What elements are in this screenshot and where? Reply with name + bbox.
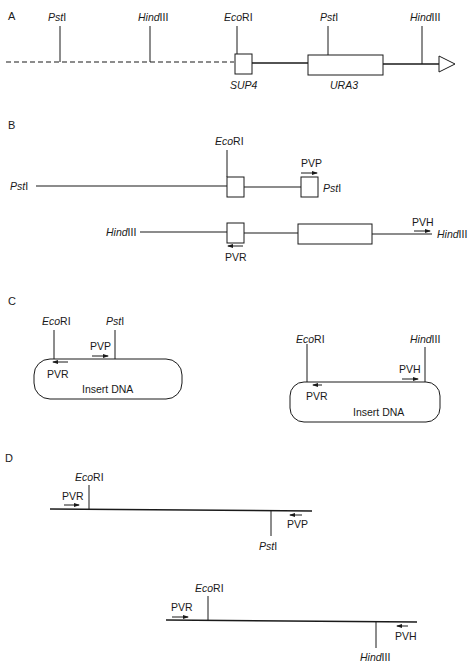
ura3-box — [298, 224, 372, 244]
sup4-box — [227, 223, 244, 243]
site-label-pst: PstI — [320, 11, 338, 23]
end-label-hind: HindIII — [106, 226, 136, 238]
primer-label-pvr: PVR — [171, 601, 193, 613]
site-label-eco: EcoRI — [195, 582, 224, 594]
site-label-eco: EcoRI — [224, 11, 253, 23]
site-label-hind: HindIII — [138, 11, 168, 23]
gene-label-ura3: URA3 — [330, 79, 358, 91]
site-label-hind: HindIII — [410, 333, 440, 345]
panel-a: A PstI HindIII EcoRI PstI HindIII SUP4 U… — [6, 10, 455, 91]
end-label-hind: HindIII — [437, 228, 467, 240]
sup4-box — [227, 177, 244, 197]
site-label-pst: PstI — [48, 11, 66, 23]
primer-label-pvr: PVR — [47, 368, 69, 380]
ura3-partial-box — [301, 177, 318, 197]
panel-d: D EcoRI PVR PVP PstI EcoRI PVR PVH HindI… — [5, 452, 417, 663]
primer-label-pvh: PVH — [412, 216, 434, 228]
direction-arrow-icon — [439, 56, 455, 72]
site-label-eco: EcoRI — [215, 135, 244, 147]
insert-label: Insert DNA — [82, 383, 133, 395]
primer-label-pvp: PVP — [90, 340, 111, 352]
panel-a-label: A — [8, 10, 16, 22]
site-label-pst: PstI — [106, 315, 124, 327]
end-label-pst: PstI — [323, 182, 341, 194]
primer-label-pvr: PVR — [225, 251, 247, 263]
primer-label-pvr: PVR — [306, 390, 328, 402]
insert-label: Insert DNA — [353, 406, 404, 418]
site-label-eco: EcoRI — [42, 315, 71, 327]
site-label-eco: EcoRI — [296, 333, 325, 345]
site-label-pst: PstI — [259, 540, 277, 552]
gene-label-sup4: SUP4 — [230, 79, 258, 91]
panel-b-label: B — [8, 119, 15, 131]
primer-label-pvh: PVH — [399, 363, 421, 375]
pcr-product-line — [50, 509, 312, 511]
panel-c-label: C — [8, 295, 16, 307]
primer-label-pvp: PVP — [287, 518, 308, 530]
end-label-pst: PstI — [10, 180, 28, 192]
panel-c: C EcoRI PstI PVP PVR Insert DNA EcoRI Hi… — [8, 295, 440, 422]
ura3-box — [308, 55, 383, 75]
diagram-canvas: A PstI HindIII EcoRI PstI HindIII SUP4 U… — [0, 0, 468, 665]
pcr-product-line — [166, 620, 417, 622]
primer-label-pvp: PVP — [301, 157, 322, 169]
panel-b: B PstI EcoRI PVP PstI HindIII PVR PVH Hi… — [8, 119, 467, 263]
panel-d-label: D — [5, 452, 13, 464]
site-label-hind: HindIII — [360, 651, 390, 663]
site-label-eco: EcoRI — [75, 471, 104, 483]
sup4-box — [235, 54, 252, 74]
site-label-hind: HindIII — [410, 11, 440, 23]
primer-label-pvr: PVR — [62, 490, 84, 502]
primer-label-pvh: PVH — [395, 630, 417, 642]
